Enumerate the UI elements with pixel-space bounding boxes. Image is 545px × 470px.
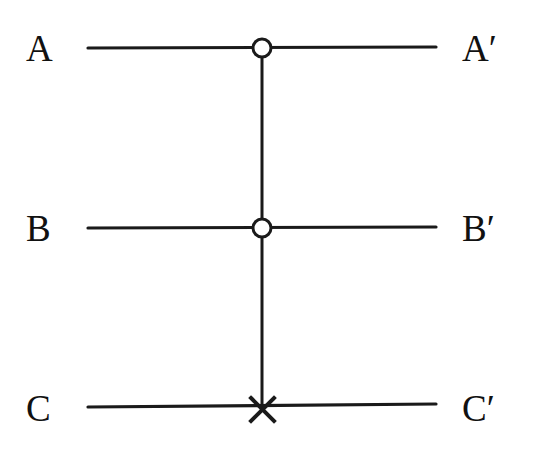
wire-b-output-label: B′ [462, 210, 495, 247]
control-circle-b-icon [253, 219, 271, 237]
wire-a-output-label: A′ [462, 30, 497, 67]
wire-c-input-label: C [26, 390, 51, 427]
control-circle-a-icon [253, 39, 271, 57]
wire-a-input-label: A [26, 30, 53, 67]
wire-b-input-label: B [26, 210, 51, 247]
circuit-diagram: A A′ B B′ C C′ [0, 0, 545, 470]
wire-c-output-label: C′ [462, 390, 495, 427]
